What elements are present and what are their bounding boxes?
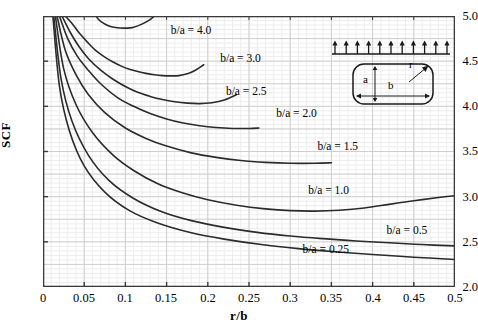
x-tick-label: 0.4 [353, 292, 393, 304]
x-tick-label: 0.3 [270, 292, 310, 304]
curve-label-ba-25: b/a = 2.5 [226, 85, 267, 97]
curve-5 [55, 16, 455, 211]
curve-label-ba-3: b/a = 3.0 [220, 52, 261, 64]
inset-label-a: a [363, 73, 368, 85]
curve-label-ba-15: b/a = 1.5 [317, 140, 358, 152]
x-tick-label: 0.2 [188, 292, 228, 304]
curve-label-ba-05: b/a = 0.5 [387, 224, 428, 236]
y-axis-label: SCF [0, 122, 14, 148]
x-tick-label: 0.5 [435, 292, 475, 304]
inset-diagram [332, 41, 450, 104]
x-tick-label: 0.1 [105, 292, 145, 304]
curve-label-ba-4: b/a = 4.0 [171, 24, 212, 36]
curve-label-ba-1: b/a = 1.0 [308, 184, 349, 196]
chart-figure: 5.0 4.5 4.0 3.5 3.0 2.5 2.0 SCF 0 0.05 0… [0, 0, 478, 326]
inset-label-r: r [409, 58, 413, 70]
x-tick-label: 0.45 [394, 292, 434, 304]
x-tick-label: 0.15 [146, 292, 186, 304]
curve-3 [59, 16, 258, 129]
curve-label-ba-025: b/a = 0.25 [303, 243, 349, 255]
curve-6 [54, 16, 455, 246]
x-axis-label: r/b [0, 308, 478, 324]
x-tick-label: 0.05 [64, 292, 104, 304]
x-tick-label: 0.35 [311, 292, 351, 304]
x-tick-label: 0.25 [229, 292, 269, 304]
curve-label-ba-2: b/a = 2.0 [276, 107, 317, 119]
inset-label-b: b [388, 79, 394, 91]
x-tick-label: 0 [23, 292, 63, 304]
plot-area: b/a = 4.0 b/a = 3.0 b/a = 2.5 b/a = 2.0 … [43, 16, 455, 287]
